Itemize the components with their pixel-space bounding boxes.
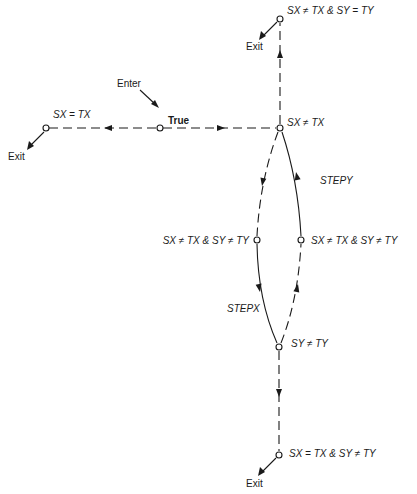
exit-label-bottom: Exit (246, 478, 263, 489)
node-bottom (276, 452, 282, 458)
state-diagram: Enter True SX = TX Exit SX ≠ TX SX ≠ TX … (0, 0, 417, 494)
exit-arrowhead-bottom (258, 467, 265, 476)
node-sxeqtx (43, 125, 49, 131)
node-top (277, 16, 283, 22)
arrowhead-right (217, 125, 225, 131)
arrowhead-up (277, 50, 283, 58)
exit-label-left: Exit (8, 151, 25, 162)
exit-label-top: Exit (246, 41, 263, 52)
edge-synety-to-rightmid (281, 244, 301, 343)
stepy-label: STEPY (320, 175, 354, 186)
enter-label: Enter (117, 78, 142, 89)
stepx-label: STEPX (227, 303, 260, 314)
sxnetx-label: SX ≠ TX (287, 117, 324, 128)
bottom-label: SX = TX & SY ≠ TY (289, 448, 377, 459)
exit-arrow-bottom (262, 458, 276, 472)
node-left-mid (254, 237, 260, 243)
node-true (157, 125, 163, 131)
exit-arrow-left (30, 132, 44, 146)
exit-arrow-top (263, 22, 277, 36)
node-synety (276, 344, 282, 350)
node-sxnetx (277, 125, 283, 131)
right-mid-label: SX ≠ TX & SY ≠ TY (311, 235, 399, 246)
true-label: True (168, 115, 190, 126)
arrowhead-down-left (259, 178, 266, 187)
synety-label: SY ≠ TY (291, 338, 329, 349)
arrowhead-left (104, 125, 112, 131)
edge-stepy (282, 132, 301, 236)
enter-arrow (140, 90, 155, 104)
edge-stepx (257, 244, 277, 343)
top-label: SX ≠ TX & SY = TY (287, 5, 375, 16)
arrowhead-down (276, 389, 282, 397)
edge-sxnetx-to-leftmid (257, 132, 278, 236)
exit-arrowhead-top (259, 31, 266, 40)
node-right-mid (298, 237, 304, 243)
sxeqtx-label: SX = TX (53, 109, 91, 120)
left-mid-label: SX ≠ TX & SY ≠ TY (163, 235, 251, 246)
